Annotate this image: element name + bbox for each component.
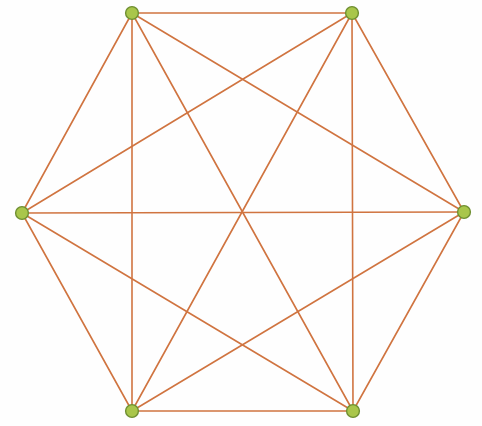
graph-vertex-right [458, 206, 471, 219]
graph-vertex-bottom-left [126, 405, 139, 418]
graph-drawing-surface [0, 0, 482, 426]
graph-vertex-top-left [126, 7, 139, 20]
graph-edge [132, 13, 464, 212]
graph-vertex-top-right [346, 7, 359, 20]
edge-layer [22, 13, 464, 411]
graph-edge [22, 213, 132, 411]
graph-edge [22, 13, 132, 213]
graph-edge [353, 212, 464, 411]
graph-edge [352, 13, 464, 212]
graph-vertex-left [16, 207, 29, 220]
graph-vertex-bottom-right [347, 405, 360, 418]
graph-edge [22, 212, 464, 213]
graph-figure [0, 0, 482, 426]
